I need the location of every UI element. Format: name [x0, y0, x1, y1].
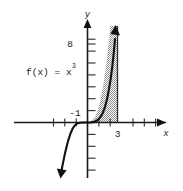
function-label-exponent: 3 — [72, 63, 76, 70]
plot-canvas: 8 -1 3 y x f(x) = x 3 — [0, 0, 183, 191]
function-label-base: f(x) = x — [26, 67, 72, 78]
curve-down-arrow-icon — [57, 169, 67, 179]
x-tick-label-minus-one: -1 — [69, 108, 81, 119]
cubic-function-figure: 8 -1 3 y x f(x) = x 3 — [0, 0, 183, 191]
shaded-area-under-curve — [88, 26, 118, 123]
y-axis-label: y — [84, 10, 91, 20]
y-axis-ticks — [88, 39, 96, 170]
x-axis-arrow-icon — [157, 119, 166, 127]
x-axis-label: x — [162, 129, 169, 139]
x-tick-label-3: 3 — [115, 129, 121, 140]
y-tick-label-8: 8 — [67, 39, 73, 50]
